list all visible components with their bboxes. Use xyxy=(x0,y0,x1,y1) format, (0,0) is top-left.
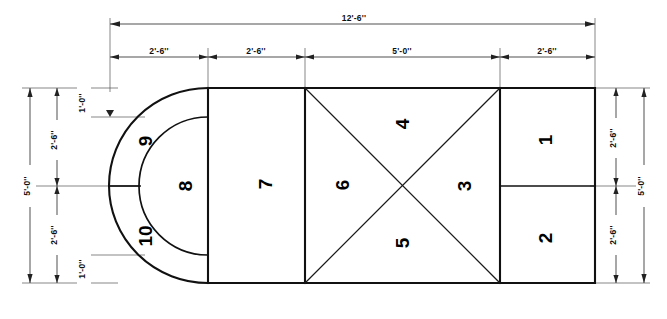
arrowhead-seg2-right xyxy=(296,54,305,59)
zone-label-10: 10 xyxy=(135,225,156,246)
arrowhead-right-overall-top xyxy=(641,88,646,97)
tangent-pointer-arrow xyxy=(106,110,114,117)
technical-drawing-canvas: 12'-6'' 2'-6'' 2'-6'' 5'-0'' 2'-6'' xyxy=(0,0,667,319)
arrowhead-left-seg1-bottom xyxy=(54,178,59,186)
arrowhead-seg3-right xyxy=(491,54,500,59)
right-segment-label-1: 2'-6'' xyxy=(608,128,618,148)
zone-label-7: 7 xyxy=(255,179,276,190)
arrowhead-right-seg1-top xyxy=(613,88,618,96)
arrowhead-seg3-left xyxy=(305,54,314,59)
arrowhead-seg1-left xyxy=(110,54,119,59)
right-dimension-group: 2'-6'' 2'-6'' 5'-0'' xyxy=(590,88,650,283)
arrowhead-right-overall xyxy=(585,21,595,27)
top-segment-label-2: 2'-6'' xyxy=(246,46,266,56)
left-segment-label-2: 2'-6'' xyxy=(49,225,59,245)
top-segment-label-1: 2'-6'' xyxy=(149,46,169,56)
overall-width-label: 12'-6'' xyxy=(342,13,366,23)
arrowhead-right-seg2-bottom xyxy=(613,275,618,283)
zone-label-9: 9 xyxy=(135,136,156,147)
zone-label-1: 1 xyxy=(535,134,556,145)
right-overall-height-label: 5'-0'' xyxy=(636,176,646,196)
zone-label-3: 3 xyxy=(454,181,475,192)
zone-label-group: 1 2 3 4 5 6 7 8 9 10 xyxy=(135,118,556,248)
arrowhead-seg4-left xyxy=(500,54,509,59)
arrowhead-left-overall xyxy=(110,21,120,27)
arrowhead-left-seg2-top xyxy=(54,186,59,194)
zone-label-5: 5 xyxy=(392,237,413,248)
arrowhead-seg4-right xyxy=(586,54,595,59)
right-segment-label-2: 2'-6'' xyxy=(608,225,618,245)
arrowhead-seg2-left xyxy=(208,54,217,59)
arrowhead-seg1-right xyxy=(199,54,208,59)
top-segment-label-3: 5'-0'' xyxy=(392,46,412,56)
arrowhead-left-overall-top xyxy=(27,88,32,97)
left-offset-label-top: 1'-0'' xyxy=(77,93,87,113)
zone-label-2: 2 xyxy=(535,233,556,244)
arrowhead-right-overall-bottom xyxy=(641,274,646,283)
zone-label-4: 4 xyxy=(392,118,413,129)
arrowhead-left-overall-bottom xyxy=(27,274,32,283)
left-segment-label-1: 2'-6'' xyxy=(49,130,59,150)
arrowhead-left-seg2-bottom xyxy=(54,275,59,283)
top-segment-label-4: 2'-6'' xyxy=(537,46,557,56)
floor-plan-svg: 12'-6'' 2'-6'' 2'-6'' 5'-0'' 2'-6'' xyxy=(0,0,667,319)
arrowhead-right-seg1-bottom xyxy=(613,178,618,186)
zone-label-8: 8 xyxy=(175,181,196,192)
zone-label-6: 6 xyxy=(332,180,353,191)
left-offset-label-bottom: 1'-0'' xyxy=(77,259,87,279)
arrowhead-right-seg2-top xyxy=(613,186,618,194)
arrowhead-left-seg1-top xyxy=(54,88,59,96)
top-dimension-group: 12'-6'' 2'-6'' 2'-6'' 5'-0'' 2'-6'' xyxy=(110,11,595,92)
left-overall-height-label: 5'-0'' xyxy=(22,176,32,196)
